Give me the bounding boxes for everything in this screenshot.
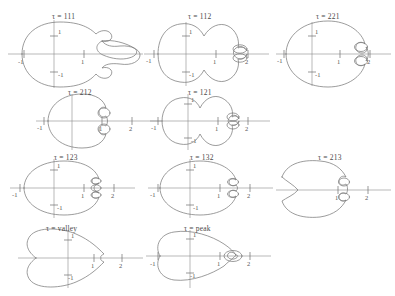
panel-plot: 1 2 [276,155,391,221]
x-tick-label-neg1: -1 [151,124,156,131]
curve-loop-lower [339,193,350,201]
curve-loop-upper [91,178,101,184]
figure-panel-grid: τ = 111 1 -1 -1 1 τ = 112 1 -1 [0,0,395,296]
x-tick-label-neg1: -1 [146,57,151,64]
curve-inner-loop [97,40,137,59]
panel-tau-221: τ = 221 1 -1 -1 1 2 [276,14,391,90]
x-tick-label-1: 1 [217,192,220,199]
x-tick-label-neg1: -1 [150,260,155,267]
panel-label: τ = 221 [316,12,340,21]
x-tick-label-neg1: -1 [12,191,17,198]
x-tick-label-2: 2 [129,125,132,132]
x-tick-label-2: 2 [247,260,250,267]
panel-tau-121: τ = 121 1 -1 -1 1 2 [150,90,270,152]
y-tick-label-neg1: -1 [189,71,194,78]
x-tick-label-2: 2 [119,262,122,269]
panel-label: τ = 121 [188,88,212,97]
panel-plot: 1 -1 -1 1 2 [148,155,273,221]
x-tick-label-neg1: -1 [277,57,282,64]
y-tick-label-neg1: -1 [57,204,62,211]
panel-tau-132: τ = 132 1 -1 -1 1 2 [148,155,273,221]
y-tick-label-neg1: -1 [193,204,198,211]
panel-tau-112: τ = 112 1 -1 -1 1 2 [144,14,269,90]
panel-label: τ = 212 [68,88,92,97]
y-tick-label-neg1: -1 [190,272,195,279]
panel-label: τ = 123 [54,153,78,162]
panel-plot: 1 -1 -1 1 2 [144,14,269,90]
panel-plot: 1 -1 -1 1 [8,14,143,90]
panel-label: τ = 111 [52,12,75,21]
panel-tau-111: τ = 111 1 -1 -1 1 [8,14,143,90]
panel-tau-212: τ = 212 -1 1 2 [36,90,161,152]
x-tick-label-1: 1 [91,262,94,269]
y-tick-label-neg1: -1 [58,71,63,78]
x-tick-label-2: 2 [247,192,250,199]
x-tick-label-neg1: -1 [37,124,42,131]
x-tick-label-2: 2 [365,194,368,201]
panel-tau-123: τ = 123 1 -1 -1 1 2 [10,155,135,221]
panel-tau-peak: τ = peak 1 -1 -1 1 2 [146,226,271,290]
y-tick-label-neg1: -1 [315,71,320,78]
x-tick-label-1: 1 [213,58,216,65]
x-tick-label-1: 1 [81,58,84,65]
panel-tau-valley: τ = valley 1 -1 1 2 [18,226,143,290]
curve-loop-lower [91,192,101,198]
curve-loop-upper [355,43,368,52]
panel-plot: 1 -1 -1 1 2 [10,155,135,221]
panel-label: τ = valley [46,224,77,233]
x-tick-label-1: 1 [81,192,84,199]
x-tick-label-neg1: -1 [150,191,155,198]
panel-plot: 1 -1 -1 1 2 [146,226,271,290]
panel-label: τ = 132 [190,153,214,162]
y-tick-label-1: 1 [58,28,61,35]
x-tick-label-2: 2 [111,192,114,199]
x-tick-label-2: 2 [245,125,248,132]
y-tick-label-neg1: -1 [68,274,73,281]
panel-plot: -1 1 2 [36,90,161,152]
curve-main [22,22,140,87]
curve-loop-lower [355,57,368,66]
y-tick-label-1: 1 [315,28,318,35]
panel-plot: 1 -1 1 2 [18,226,143,290]
panel-plot: 1 -1 -1 1 2 [150,90,270,152]
panel-tau-213: τ = 213 1 2 [276,155,391,221]
y-tick-label-1: 1 [57,162,60,169]
curve-main [158,24,247,83]
y-tick-label-1: 1 [193,162,196,169]
x-tick-label-1: 1 [337,58,340,65]
panel-plot: 1 -1 -1 1 2 [276,14,391,90]
panel-label: τ = 112 [188,12,211,21]
x-tick-label-1: 1 [215,125,218,132]
x-tick-label-1: 1 [335,194,338,201]
panel-label: τ = peak [184,224,211,233]
panel-label: τ = 213 [318,153,342,162]
x-tick-label-1: 1 [217,260,220,267]
y-tick-label-1: 1 [189,28,192,35]
